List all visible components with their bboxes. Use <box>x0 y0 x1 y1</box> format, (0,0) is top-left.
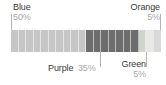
segment-label-green-percent: 5% <box>121 69 146 79</box>
bar-cell-blue <box>79 30 87 52</box>
bar-cell-purple <box>101 30 109 52</box>
segment-label-orange-percent: 5% <box>131 12 160 22</box>
bar-cell-purple <box>116 30 124 52</box>
segment-label-orange: Orange 5% <box>131 2 160 22</box>
bar-cell-purple <box>94 30 102 52</box>
segment-label-blue-name: Blue <box>13 2 31 12</box>
segment-label-purple: Purple 35% <box>48 61 96 73</box>
segment-label-purple-name: Purple <box>48 63 73 73</box>
stacked-bar-track <box>11 30 161 52</box>
bar-cell-orange <box>146 30 154 52</box>
bar-cell-purple <box>109 30 117 52</box>
leader-line-blue <box>11 14 12 31</box>
bar-cell-blue <box>49 30 57 52</box>
bar-cell-blue <box>34 30 42 52</box>
bar-cell-blue <box>64 30 72 52</box>
bar-cell-green <box>139 30 147 52</box>
bar-cell-blue <box>11 30 19 52</box>
segment-label-green: Green 5% <box>121 59 146 79</box>
segment-label-blue: Blue 50% <box>13 2 31 22</box>
bar-cell-purple <box>86 30 94 52</box>
bar-cell-blue <box>71 30 79 52</box>
leader-line-orange <box>160 14 161 31</box>
bar-cell-purple <box>131 30 139 52</box>
stacked-percentage-bar-chart: Blue 50% Orange 5% Purple 35% Green 5% <box>0 0 166 85</box>
bar-cell-blue <box>41 30 49 52</box>
segment-label-green-name: Green <box>121 59 146 69</box>
segment-label-blue-percent: 50% <box>13 12 31 22</box>
bar-cell-blue <box>56 30 64 52</box>
segment-label-purple-percent: 35% <box>78 63 96 73</box>
leader-line-purple <box>100 51 101 67</box>
bar-cell-blue <box>26 30 34 52</box>
bar-cell-blue <box>19 30 27 52</box>
segment-label-orange-name: Orange <box>131 2 160 12</box>
bar-cell-purple <box>124 30 132 52</box>
leader-line-green <box>146 51 147 67</box>
